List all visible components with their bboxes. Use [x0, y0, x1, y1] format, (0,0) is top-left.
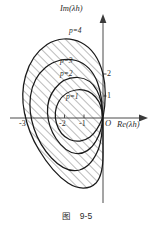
y-axis-label: Im(λh) [60, 4, 83, 13]
caption-number: 9-5 [80, 211, 92, 221]
x-tick-label-neg3: -3 [19, 120, 26, 128]
figure-caption: 图9-5 [0, 209, 154, 221]
x-axis-label: Re(λh) [117, 120, 140, 129]
caption-symbol: 图 [62, 211, 71, 221]
y-tick-label-1: 1 [107, 92, 111, 100]
x-tick-label-neg2: -2 [59, 120, 66, 128]
curve-label-p4: p=4 [69, 27, 82, 35]
origin-label: O [105, 119, 111, 128]
curve-label-p3: p=3 [60, 57, 73, 65]
x-axis-arrow-icon [139, 115, 148, 122]
curve-label-p2: p=2 [60, 70, 73, 78]
x-tick-label-neg1: -1 [79, 120, 86, 128]
curve-label-p1: p=1 [66, 93, 79, 101]
y-tick-label-2: 2 [107, 70, 111, 78]
y-axis-arrow-icon [100, 14, 107, 23]
figure-container: Im(λh) Re(λh) O -3 -2 -1 2 1 p=4 p=3 p=2… [0, 0, 154, 227]
